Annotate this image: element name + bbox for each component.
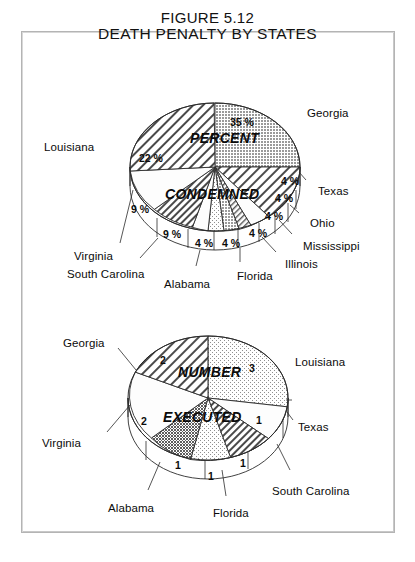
caption-executed: EXECUTED [163, 409, 242, 425]
value-texas-percent: 4 % [281, 175, 299, 187]
value-virginia-percent: 9 % [131, 203, 149, 215]
label-texas-percent: Texas [318, 185, 349, 197]
label-south-carolina-number: South Carolina [272, 485, 349, 497]
label-texas-number: Texas [298, 421, 329, 433]
figure-title-block: FIGURE 5.12 DEATH PENALTY BY STATES [0, 10, 415, 43]
value-florida-percent: 4 % [222, 237, 240, 249]
value-virginia-number: 2 [141, 415, 147, 427]
label-virginia-number: Virginia [42, 437, 81, 449]
value-louisiana-percent: 22 % [139, 152, 163, 164]
value-alabama-percent: 4 % [195, 237, 213, 249]
value-georgia-percent: 35 % [230, 116, 254, 128]
label-florida-percent: Florida [237, 270, 273, 282]
figure-number: FIGURE 5.12 [0, 10, 415, 26]
label-mississippi-percent: Mississippi [303, 240, 360, 252]
caption-condemned: CONDEMNED [165, 186, 259, 202]
label-georgia-percent: Georgia [307, 107, 349, 119]
label-virginia-percent: Virginia [74, 250, 113, 262]
label-ohio-percent: Ohio [310, 217, 335, 229]
label-florida-number: Florida [213, 507, 249, 519]
label-alabama-percent: Alabama [164, 278, 210, 290]
value-illinois-percent: 4 % [249, 227, 267, 239]
value-ohio-percent: 4 % [275, 192, 293, 204]
label-louisiana-number: Louisiana [295, 356, 345, 368]
label-georgia-number: Georgia [63, 337, 105, 349]
value-louisiana-number: 3 [249, 362, 255, 374]
value-texas-number: 1 [256, 414, 262, 426]
caption-percent: PERCENT [190, 130, 259, 146]
label-south-carolina-percent: South Carolina [67, 268, 144, 280]
page-title: DEATH PENALTY BY STATES [0, 26, 415, 43]
value-georgia-number: 2 [160, 354, 166, 366]
label-alabama-number: Alabama [108, 502, 154, 514]
value-mississippi-percent: 4 % [265, 210, 283, 222]
value-florida-number: 1 [208, 470, 214, 482]
value-alabama-number: 1 [175, 459, 181, 471]
value-south-carolina-percent: 9 % [163, 228, 181, 240]
value-south-carolina-number: 1 [240, 457, 246, 469]
label-illinois-percent: Illinois [285, 258, 318, 270]
label-louisiana-percent: Louisiana [44, 141, 94, 153]
caption-number: NUMBER [178, 364, 241, 380]
